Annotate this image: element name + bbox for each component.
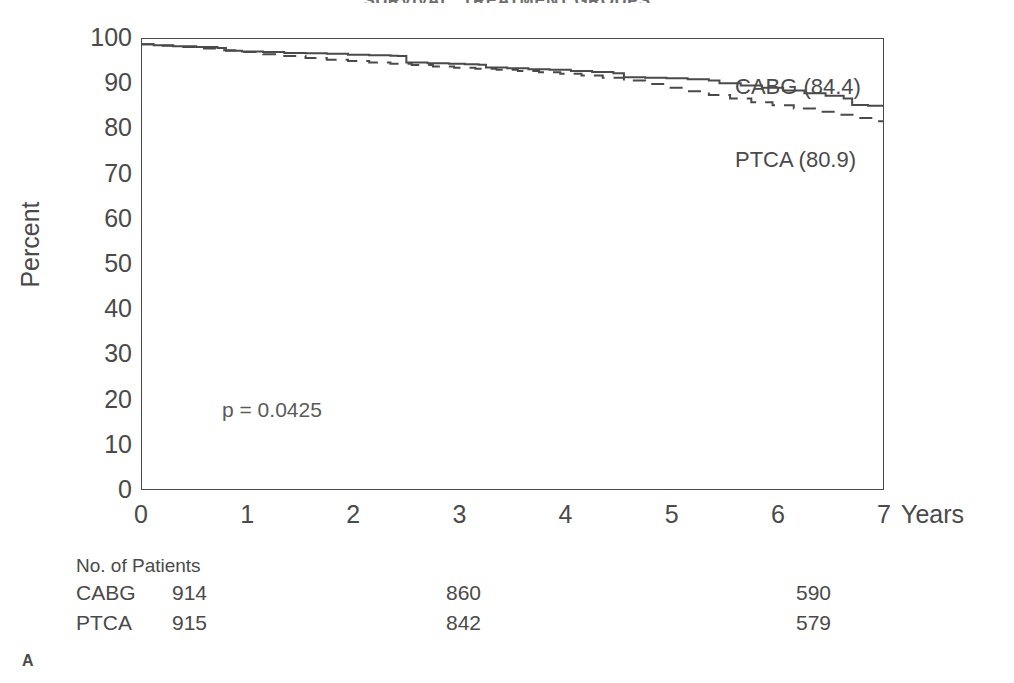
x-axis-tick-labels: 01234567 [141, 500, 884, 534]
risk-table-cell-c1: 842 [446, 608, 481, 638]
pvalue-annotation: p = 0.0425 [222, 398, 322, 422]
y-tick-label: 30 [60, 341, 132, 366]
y-tick-label: 70 [60, 161, 132, 186]
x-tick-label: 4 [536, 500, 596, 528]
y-tick-label: 20 [60, 387, 132, 412]
x-tick-label: 1 [217, 500, 277, 528]
y-tick-label: 10 [60, 432, 132, 457]
x-tick-label: 3 [429, 500, 489, 528]
curve-label-ptca: PTCA (80.9) [735, 148, 856, 172]
y-tick-label: 60 [60, 206, 132, 231]
y-tick-label: 40 [60, 296, 132, 321]
risk-table-cell-c0: 915 [172, 608, 207, 638]
panel-letter: A [22, 652, 34, 670]
y-tick-label: 0 [60, 477, 132, 502]
y-axis-title: Percent [16, 185, 45, 305]
y-axis-tick-labels: 0102030405060708090100 [60, 38, 132, 490]
risk-table-cell-c2: 579 [796, 608, 831, 638]
risk-table-cell-c1: 860 [446, 578, 481, 608]
risk-table-row: CABG914860590 [76, 578, 956, 608]
x-tick-label: 0 [111, 500, 171, 528]
risk-table-row: PTCA915842579 [76, 608, 956, 638]
y-tick-label: 80 [60, 115, 132, 140]
x-tick-label: 2 [323, 500, 383, 528]
risk-table-cell-arm: CABG [76, 578, 136, 608]
y-tick-label: 100 [60, 25, 132, 50]
number-at-risk-table: No. of Patients CABG914860590PTCA9158425… [76, 553, 956, 638]
risk-table-cell-c2: 590 [796, 578, 831, 608]
x-tick-label: 6 [748, 500, 808, 528]
risk-table-cell-c0: 914 [172, 578, 207, 608]
y-tick-label: 90 [60, 70, 132, 95]
risk-table-cell-arm: PTCA [76, 608, 132, 638]
figure-title: SURVIVAL: TREATMENT GROUPS [0, 0, 1014, 3]
x-tick-label: 5 [642, 500, 702, 528]
survival-curves-plot [141, 38, 884, 490]
y-tick-label: 50 [60, 251, 132, 276]
x-axis-title: Years [901, 500, 964, 528]
risk-table-title: No. of Patients [76, 553, 956, 578]
curve-label-cabg: CABG (84.4) [735, 75, 861, 99]
